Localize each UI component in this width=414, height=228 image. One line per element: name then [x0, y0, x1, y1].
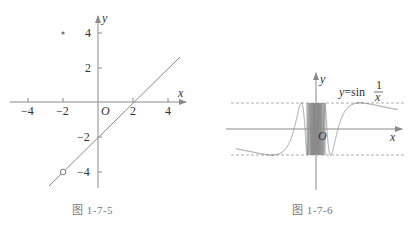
x-axis-label: x [389, 130, 396, 144]
y-axis-label: y [101, 11, 108, 25]
open-point [60, 169, 66, 175]
y-tick-label: 2 [85, 61, 91, 75]
origin-label: O [318, 129, 327, 143]
origin-label: O [101, 104, 110, 118]
figure-1-7-6: y x O y=sin 1 x 图 1-7-6 [226, 72, 405, 216]
y-axis-label: y [319, 72, 326, 86]
y-tick-label: −2 [77, 130, 90, 144]
function-label: y=sin 1 x [338, 78, 383, 104]
x-tick-label: −4 [21, 104, 34, 118]
fraction-denominator: x [374, 90, 381, 104]
graph-line [49, 57, 180, 186]
function-label-rest: =sin [344, 85, 365, 99]
figure-caption: 图 1-7-5 [72, 204, 113, 216]
x-tick-label: 2 [130, 104, 136, 118]
figure-caption: 图 1-7-6 [292, 204, 333, 216]
y-tick-label: 4 [85, 26, 91, 40]
x-tick-label: 4 [165, 104, 171, 118]
x-tick-label: −2 [56, 104, 69, 118]
figure-1-7-5: −4 −2 2 4 4 2 −2 −4 x y O 图 1-7-5 [10, 11, 186, 216]
x-axis-label: x [177, 86, 184, 100]
svg-text:y=sin: y=sin [338, 85, 365, 99]
y-tick-label: −4 [77, 165, 90, 179]
figures-canvas: −4 −2 2 4 4 2 −2 −4 x y O 图 1-7-5 y x O [0, 0, 414, 228]
filled-point [61, 31, 64, 34]
